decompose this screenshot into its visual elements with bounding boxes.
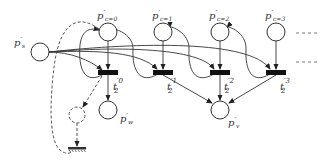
label-pc1: p′c=1 — [152, 9, 172, 22]
dashed-place — [69, 107, 85, 123]
label-t3: t′32 — [280, 77, 291, 95]
label-pc3: p′c=3 — [265, 9, 285, 22]
place-pc2 — [211, 23, 229, 41]
arcs-from-ps — [49, 45, 270, 70]
transition-t3 — [266, 70, 286, 75]
transition-t0 — [98, 70, 118, 75]
label-t2: t′22 — [224, 77, 235, 95]
output-arcs — [108, 75, 276, 103]
label-ps: p′s — [14, 36, 25, 49]
transition-t2 — [210, 70, 230, 75]
label-pc2: p′c=2 — [209, 9, 229, 22]
petri-net-diagram: p′s p′c=0 p′c=1 p′c=2 p′c=3 p′w p′v t′02… — [0, 0, 327, 165]
continuation-marks — [296, 33, 318, 62]
diagram-svg: p′s p′c=0 p′c=1 p′c=2 p′c=3 p′w p′v t′02… — [0, 0, 327, 165]
place-pc1 — [154, 23, 172, 41]
sink-symbol — [68, 147, 86, 152]
label-t1: t′12 — [167, 77, 177, 95]
place-pc0 — [99, 23, 117, 41]
place-ps — [31, 43, 49, 61]
label-pc0: p′c=0 — [97, 9, 117, 22]
place-pc3 — [267, 23, 285, 41]
dashed-arcs — [51, 22, 102, 153]
place-pw — [99, 101, 117, 119]
place-pv — [211, 101, 229, 119]
label-t0: t′02 — [113, 77, 124, 95]
label-pv: p′v — [228, 116, 240, 129]
labels: p′s p′c=0 p′c=1 p′c=2 p′c=3 p′w p′v t′02… — [14, 9, 291, 129]
label-pw: p′w — [120, 112, 134, 125]
transition-t1 — [153, 70, 173, 75]
